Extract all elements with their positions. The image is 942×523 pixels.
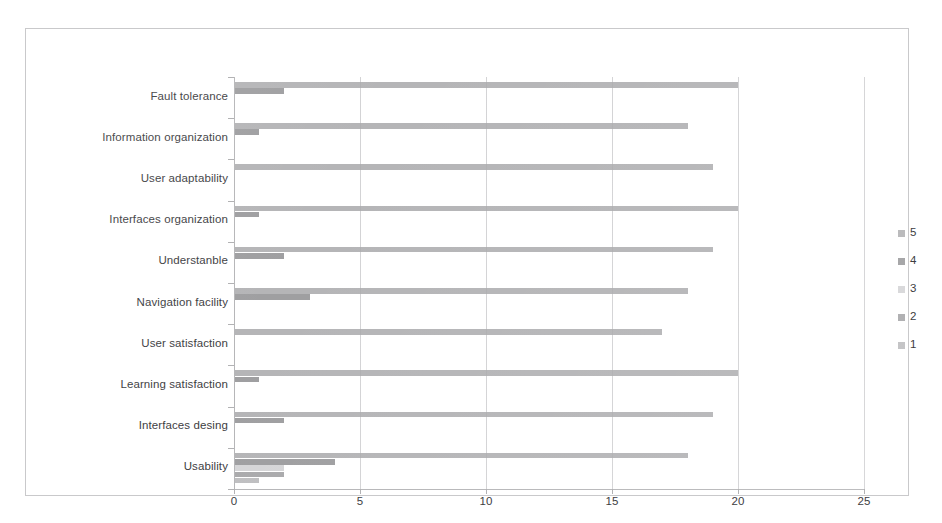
y-axis-tick [228,407,234,408]
bar-information-organization-series-5 [234,123,688,129]
x-axis-tick [738,489,739,494]
gridline-25 [864,77,865,489]
bar-interfaces-organization-series-4 [234,212,259,218]
chart-frame: Fault toleranceInformation organizationU… [25,28,909,496]
gridline-20 [738,77,739,489]
bar-user-adaptability-series-5 [234,164,713,170]
category-label-navigation-facility: Navigation facility [38,296,228,308]
gridline-10 [486,77,487,489]
x-axis-tick [234,489,235,494]
bar-interfaces-desing-series-4 [234,418,284,424]
legend-swatch-icon-1 [898,342,905,349]
bar-information-organization-series-4 [234,129,259,135]
x-axis-tick-label-5: 5 [357,495,363,507]
legend-item-3[interactable]: 3 [898,275,938,303]
gridline-15 [612,77,613,489]
category-label-learning-satisfaction: Learning satisfaction [38,378,228,390]
category-axis-labels: Fault toleranceInformation organizationU… [34,77,228,489]
legend-swatch-icon-2 [898,314,905,321]
y-axis-tick [228,118,234,119]
x-axis-tick [360,489,361,494]
x-axis-tick-label-20: 20 [732,495,745,507]
x-axis-labels: 0510152025 [234,495,865,517]
legend-item-1[interactable]: 1 [898,331,938,359]
y-axis-tick [228,159,234,160]
legend-swatch-icon-5 [898,230,905,237]
x-axis-tick [864,489,865,494]
category-label-user-satisfaction: User satisfaction [38,337,228,349]
bar-learning-satisfaction-series-5 [234,370,738,376]
legend-label-1: 1 [910,339,916,351]
legend-item-5[interactable]: 5 [898,219,938,247]
category-label-interfaces-desing: Interfaces desing [38,419,228,431]
bar-navigation-facility-series-5 [234,288,688,294]
y-axis-tick [228,324,234,325]
y-axis-tick [228,201,234,202]
bar-user-satisfaction-series-5 [234,329,662,335]
x-axis-line [234,489,865,490]
x-axis-tick-label-0: 0 [231,495,237,507]
category-label-usability: Usability [38,460,228,472]
plot-area [234,77,864,489]
bar-interfaces-organization-series-5 [234,206,738,212]
bar-learning-satisfaction-series-4 [234,377,259,383]
legend-label-4: 4 [910,255,916,267]
category-label-information-organization: Information organization [38,131,228,143]
bar-usability-series-1 [234,478,259,484]
x-axis-tick-label-10: 10 [480,495,493,507]
bar-fault-tolerance-series-5 [234,82,738,88]
bar-navigation-facility-series-4 [234,294,310,300]
legend-label-3: 3 [910,283,916,295]
y-axis-tick [228,242,234,243]
y-axis-line [234,77,235,489]
bar-fault-tolerance-series-4 [234,88,284,94]
legend-swatch-icon-4 [898,258,905,265]
bar-interfaces-desing-series-5 [234,412,713,418]
category-label-user-adaptability: User adaptability [38,172,228,184]
bar-usability-series-2 [234,472,284,478]
category-label-interfaces-organization: Interfaces organization [38,213,228,225]
bar-usability-series-4 [234,459,335,465]
chart-legend: 54321 [898,219,938,359]
legend-item-4[interactable]: 4 [898,247,938,275]
legend-item-2[interactable]: 2 [898,303,938,331]
bar-understanble-series-5 [234,247,713,253]
x-axis-tick [612,489,613,494]
gridline-5 [360,77,361,489]
bar-usability-series-5 [234,453,688,459]
legend-label-2: 2 [910,311,916,323]
legend-label-5: 5 [910,227,916,239]
y-axis-tick [228,77,234,78]
legend-swatch-icon-3 [898,286,905,293]
x-axis-tick-label-15: 15 [606,495,619,507]
bar-understanble-series-4 [234,253,284,259]
category-label-fault-tolerance: Fault tolerance [38,90,228,102]
y-axis-tick [228,283,234,284]
bar-usability-series-3 [234,465,284,471]
category-label-understanble: Understanble [38,254,228,266]
y-axis-tick [228,365,234,366]
x-axis-tick-label-25: 25 [858,495,871,507]
y-axis-tick [228,448,234,449]
x-axis-tick [486,489,487,494]
